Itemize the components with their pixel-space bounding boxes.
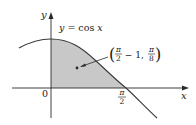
function-eq: = cos: [64, 22, 97, 33]
x-axis-label: x: [181, 90, 187, 101]
centroid-label: ( π 2 − 1, π 8 ): [109, 45, 161, 64]
function-label: y = cos x: [58, 22, 103, 33]
origin-label: 0: [42, 88, 48, 99]
y-axis-arrow-icon: [49, 12, 54, 19]
svg-text:π: π: [119, 88, 126, 97]
svg-text:): ): [155, 45, 161, 64]
centroid-point: [76, 67, 79, 70]
svg-text:π: π: [115, 45, 122, 54]
svg-text:π: π: [148, 45, 155, 54]
y-axis-label: y: [40, 9, 47, 20]
svg-text:(: (: [109, 45, 115, 64]
svg-text:− 1,: − 1,: [122, 50, 147, 60]
svg-text:8: 8: [149, 54, 154, 63]
svg-text:2: 2: [120, 97, 125, 106]
cosine-centroid-diagram: y x 0 y = cos x π 2 ( π 2 − 1, π 8 ): [0, 0, 196, 125]
function-var: x: [97, 22, 103, 33]
x-tick-pi-over-2: π 2: [118, 88, 126, 106]
svg-text:2: 2: [116, 54, 121, 63]
